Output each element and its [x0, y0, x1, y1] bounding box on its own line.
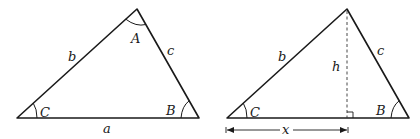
- angle-label-c-right: C: [250, 105, 260, 120]
- dimension-label-x: x: [282, 122, 290, 137]
- angle-label-a: A: [130, 31, 140, 46]
- right-angle-marker: [347, 112, 353, 118]
- angle-arc-b-right: [391, 101, 399, 118]
- altitude-label-h: h: [332, 59, 340, 74]
- angle-arc-c: [33, 103, 37, 118]
- side-label-c-right: c: [377, 43, 385, 58]
- side-label-c: c: [167, 43, 175, 58]
- angle-label-b: B: [165, 103, 176, 118]
- side-label-a: a: [103, 121, 111, 136]
- left-triangle: A C B b c a: [17, 9, 199, 136]
- left-triangle-outline: [17, 9, 199, 118]
- side-label-b: b: [68, 49, 76, 64]
- right-triangle: C B b c h x: [226, 9, 409, 137]
- angle-label-b-right: B: [375, 103, 386, 118]
- angle-arc-c-right: [243, 103, 247, 118]
- dimension-x: x: [226, 122, 348, 137]
- right-triangle-outline: [227, 9, 409, 118]
- triangle-diagram: A C B b c a C B b c h x: [0, 0, 420, 139]
- angle-label-c: C: [40, 105, 50, 120]
- side-label-b-right: b: [278, 49, 286, 64]
- angle-arc-b: [181, 101, 189, 118]
